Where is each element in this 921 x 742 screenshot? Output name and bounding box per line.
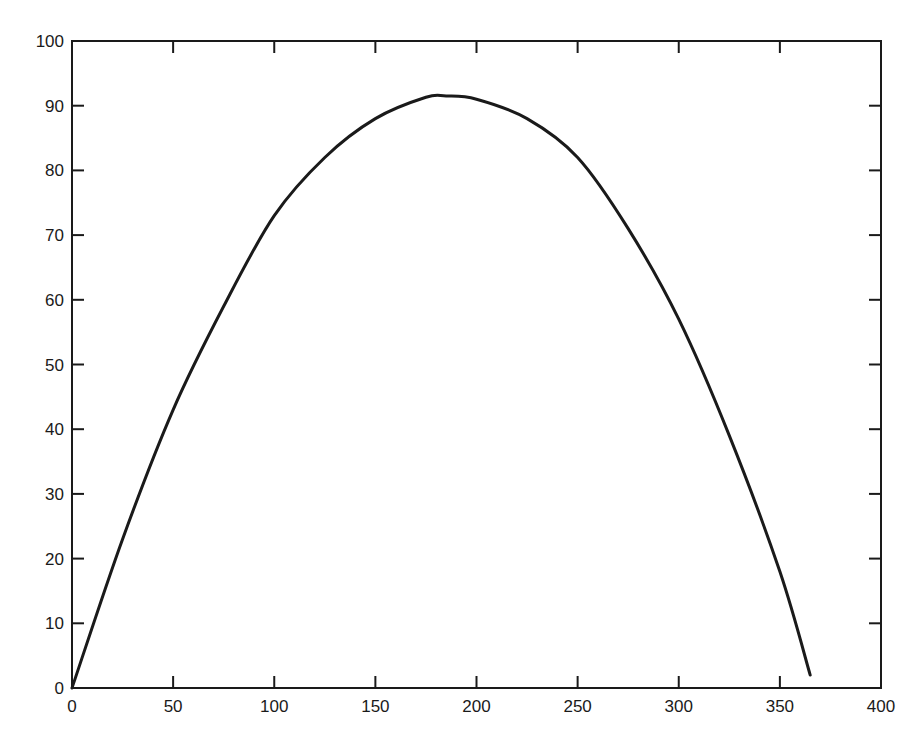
chart: 050100150200250300350400 010203040506070… [0,0,921,742]
y-tick-label: 50 [45,356,64,375]
x-axis-ticks: 050100150200250300350400 [67,41,895,716]
y-tick-label: 30 [45,485,64,504]
data-line [72,95,810,688]
y-tick-label: 70 [45,226,64,245]
y-tick-label: 10 [45,614,64,633]
y-tick-label: 90 [45,97,64,116]
x-tick-label: 250 [563,697,591,716]
y-tick-label: 100 [36,32,64,51]
x-tick-label: 200 [462,697,490,716]
y-axis-ticks: 0102030405060708090100 [36,32,881,698]
x-tick-label: 100 [260,697,288,716]
y-tick-label: 0 [55,679,64,698]
x-tick-label: 0 [67,697,76,716]
y-tick-label: 60 [45,291,64,310]
x-tick-label: 300 [665,697,693,716]
y-tick-label: 20 [45,550,64,569]
y-tick-label: 40 [45,420,64,439]
x-tick-label: 50 [164,697,183,716]
x-tick-label: 400 [867,697,895,716]
y-tick-label: 80 [45,161,64,180]
x-tick-label: 150 [361,697,389,716]
x-tick-label: 350 [766,697,794,716]
